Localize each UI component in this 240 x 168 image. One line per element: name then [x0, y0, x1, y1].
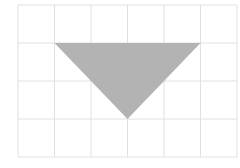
grid-diagram: [0, 0, 240, 168]
